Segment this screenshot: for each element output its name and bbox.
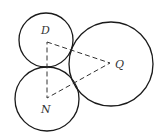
tangent-circles-diagram: D Q N [0,0,160,136]
label-q: Q [115,58,124,71]
label-n: N [40,103,51,116]
circle-q [69,22,153,106]
circle-d [19,13,73,67]
label-d: D [40,24,50,37]
circle-n [15,67,79,131]
